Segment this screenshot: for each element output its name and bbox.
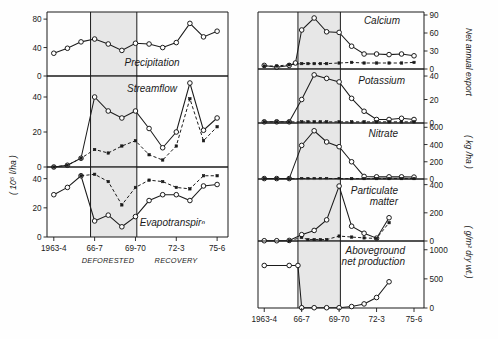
left-y-axis-title: ( 10⁵ l/ha ): [8, 155, 18, 195]
data-point-open: [120, 116, 125, 121]
data-point-closed: [388, 62, 390, 64]
y-tick-label: 0: [430, 304, 435, 313]
x-tick-label: 1963-4: [251, 315, 277, 324]
data-point-open: [349, 224, 354, 229]
data-point-open: [106, 42, 111, 47]
data-point-closed: [400, 62, 402, 64]
y-tick-label: 40: [32, 44, 42, 53]
data-point-closed: [319, 62, 321, 64]
data-point-closed: [375, 237, 377, 239]
data-point-closed: [134, 186, 136, 188]
series-title: Nitrate: [369, 128, 399, 139]
y-tick-label: 400: [430, 141, 444, 150]
data-point-closed: [288, 64, 290, 66]
data-point-open: [299, 143, 304, 148]
data-point-open: [349, 159, 354, 164]
data-point-open: [215, 116, 220, 121]
data-point-open: [324, 218, 329, 223]
data-point-closed: [216, 126, 218, 128]
x-tick-label: 69-70: [125, 244, 146, 253]
y-tick-label: 20: [32, 128, 42, 137]
data-point-open: [188, 81, 193, 86]
y-tick-label: 40: [32, 93, 42, 102]
data-point-open: [262, 263, 267, 268]
data-point-closed: [80, 175, 82, 177]
data-point-open: [362, 231, 367, 236]
data-point-open: [174, 130, 179, 135]
data-point-closed: [107, 180, 109, 182]
data-point-open: [133, 41, 138, 46]
y-tick-label: 400: [430, 181, 444, 190]
data-point-open: [92, 219, 97, 224]
data-point-open: [312, 73, 317, 78]
x-tick-label: 1963-4: [41, 244, 67, 253]
shaded-deforested-band: [298, 179, 340, 241]
data-point-open: [296, 263, 301, 268]
data-point-closed: [319, 238, 321, 240]
figure-root: 04080Precipitation02040Streamflow02040Ev…: [0, 0, 498, 339]
data-point-open: [362, 302, 367, 307]
data-point-closed: [313, 62, 315, 64]
series-title: Streamflow: [127, 83, 178, 94]
data-point-closed: [300, 236, 302, 238]
data-point-open: [312, 16, 317, 21]
data-point-open: [147, 42, 152, 47]
y-tick-label: 500: [430, 275, 444, 284]
data-point-closed: [107, 152, 109, 154]
data-point-open: [52, 192, 57, 197]
data-point-closed: [363, 62, 365, 64]
y-tick-label: 0: [430, 237, 435, 246]
data-point-open: [92, 95, 97, 100]
data-point-open: [324, 305, 329, 310]
series-title: Potassium: [358, 75, 405, 86]
data-point-open: [337, 80, 342, 85]
data-point-open: [65, 185, 70, 190]
data-point-open: [387, 279, 392, 284]
data-point-open: [201, 128, 206, 133]
y-tick-label: 40: [430, 72, 440, 81]
data-point-open: [174, 192, 179, 197]
y-tick-label: 40: [32, 175, 42, 184]
data-point-open: [92, 37, 97, 42]
data-point-closed: [66, 164, 68, 166]
data-point-open: [215, 182, 220, 187]
y-tick-label: 200: [430, 209, 444, 218]
y-tick-label: 1000: [430, 246, 449, 255]
right-y-axis-title-units: ( kg /ha ): [464, 135, 474, 169]
data-point-open: [106, 213, 111, 218]
period-label-recovery: RECOVERY: [155, 256, 199, 265]
data-point-closed: [93, 173, 95, 175]
data-point-open: [120, 224, 125, 229]
data-point-closed: [80, 157, 82, 159]
y-tick-label: 0: [37, 233, 42, 242]
data-point-closed: [338, 62, 340, 64]
data-point-closed: [161, 180, 163, 182]
y-tick-label: 60: [430, 29, 440, 38]
data-point-open: [65, 46, 70, 51]
shaded-deforested-band: [298, 241, 340, 308]
data-point-open: [412, 54, 417, 59]
data-point-open: [160, 145, 165, 150]
data-point-closed: [307, 238, 309, 240]
data-point-open: [312, 128, 317, 133]
data-point-closed: [276, 65, 278, 67]
data-point-open: [160, 45, 165, 50]
data-point-open: [52, 51, 57, 56]
shaded-deforested-band: [91, 167, 137, 237]
data-point-closed: [325, 62, 327, 64]
data-point-open: [299, 28, 304, 33]
y-tick-label: 90: [430, 11, 440, 20]
data-point-closed: [161, 159, 163, 161]
data-point-closed: [202, 175, 204, 177]
x-tick-label: 66-7: [293, 315, 310, 324]
data-point-closed: [121, 204, 123, 206]
data-point-open: [337, 184, 342, 189]
data-point-closed: [148, 179, 150, 181]
data-point-open: [387, 215, 392, 220]
period-label-deforested: DEFORESTED: [82, 256, 135, 265]
data-point-closed: [388, 221, 390, 223]
data-point-open: [160, 192, 165, 197]
x-tick-label: 66-7: [86, 244, 103, 253]
data-point-open: [147, 126, 152, 131]
data-point-closed: [189, 188, 191, 190]
